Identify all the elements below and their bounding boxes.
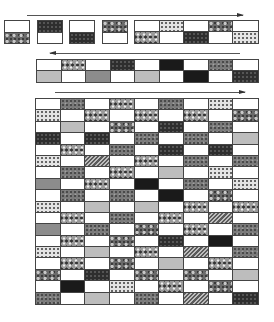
quilt-patch xyxy=(159,236,184,247)
quilt-patch xyxy=(85,167,110,178)
two-patch-unit xyxy=(102,20,128,44)
quilt-patch xyxy=(209,224,234,235)
quilt-patch xyxy=(36,179,61,190)
quilt-patch xyxy=(233,190,258,201)
patch xyxy=(135,71,160,82)
quilt-patch xyxy=(85,258,110,269)
quilt-patch xyxy=(184,99,209,110)
quilt-patch xyxy=(85,145,110,156)
patch xyxy=(233,60,258,71)
quilt-patch xyxy=(159,213,184,224)
quilt-patch xyxy=(36,293,61,304)
patch xyxy=(209,32,234,43)
quilt-patch xyxy=(184,133,209,144)
quilt-patch xyxy=(36,270,61,281)
quilt-patch xyxy=(85,247,110,258)
quilt-patch xyxy=(159,270,184,281)
quilt-patch xyxy=(85,293,110,304)
quilt-patch xyxy=(184,179,209,190)
quilt-patch xyxy=(135,213,160,224)
quilt-patch xyxy=(209,167,234,178)
quilt-patch xyxy=(209,99,234,110)
patch-top xyxy=(103,21,127,32)
quilt-patch xyxy=(61,133,86,144)
patch xyxy=(209,21,234,32)
two-patch-unit xyxy=(37,20,63,44)
quilt-patch xyxy=(184,190,209,201)
quilt-patch xyxy=(85,281,110,292)
quilt-patch xyxy=(184,270,209,281)
quilt-patch xyxy=(36,281,61,292)
quilt-patch xyxy=(61,236,86,247)
quilt-patch xyxy=(36,202,61,213)
quilt-patch xyxy=(85,236,110,247)
sewn-strip-row-2 xyxy=(36,59,259,83)
quilt-patch xyxy=(184,202,209,213)
quilt-patch xyxy=(110,190,135,201)
quilt-patch xyxy=(184,247,209,258)
patch-top xyxy=(38,21,62,32)
quilt-patch xyxy=(184,167,209,178)
quilt-patch xyxy=(233,179,258,190)
quilt-patch xyxy=(233,156,258,167)
quilt-patch xyxy=(110,258,135,269)
quilt-patch xyxy=(36,213,61,224)
quilt-patch xyxy=(159,145,184,156)
patch xyxy=(160,32,185,43)
quilt-patch xyxy=(61,145,86,156)
quilt-patch xyxy=(209,270,234,281)
quilt-patch xyxy=(61,110,86,121)
quilt-patch xyxy=(135,145,160,156)
quilt-patch xyxy=(36,156,61,167)
quilt-patch xyxy=(110,224,135,235)
quilt-patch xyxy=(233,202,258,213)
quilt-patch xyxy=(36,190,61,201)
quilt-patch xyxy=(36,247,61,258)
quilt-patch xyxy=(36,122,61,133)
quilt-patch xyxy=(36,110,61,121)
quilt-patch xyxy=(135,281,160,292)
quilt-patch xyxy=(110,156,135,167)
quilt-patch xyxy=(159,258,184,269)
quilt-patch xyxy=(209,247,234,258)
arrowhead-icon xyxy=(49,51,56,55)
patch xyxy=(62,60,87,71)
quilt-patch xyxy=(110,179,135,190)
quilt-patch xyxy=(159,99,184,110)
quilt-patch xyxy=(184,293,209,304)
patch xyxy=(233,21,258,32)
assembled-direction-arrow-icon xyxy=(55,92,245,93)
quilt-patch xyxy=(61,224,86,235)
quilt-patch xyxy=(110,110,135,121)
quilt-patch xyxy=(36,236,61,247)
quilt-patch xyxy=(135,133,160,144)
quilt-patch xyxy=(209,156,234,167)
quilt-patch xyxy=(85,224,110,235)
quilt-patch xyxy=(61,167,86,178)
quilt-patch xyxy=(85,122,110,133)
quilt-patch xyxy=(85,202,110,213)
quilt-patch xyxy=(135,247,160,258)
quilt-patch xyxy=(85,99,110,110)
quilt-patch xyxy=(85,110,110,121)
quilt-patch xyxy=(233,110,258,121)
quilt-patch xyxy=(209,179,234,190)
quilt-patch xyxy=(61,122,86,133)
quilt-patch xyxy=(159,122,184,133)
quilt-patch xyxy=(159,281,184,292)
quilt-patch xyxy=(61,258,86,269)
quilt-patch xyxy=(233,213,258,224)
quilt-patch xyxy=(135,122,160,133)
patch-bottom xyxy=(38,32,62,44)
patch xyxy=(111,60,136,71)
patch xyxy=(233,71,258,82)
quilt-patch xyxy=(233,281,258,292)
quilt-patch xyxy=(209,122,234,133)
quilt-patch xyxy=(85,270,110,281)
assembled-quilt-grid xyxy=(35,98,259,305)
quilt-patch xyxy=(233,133,258,144)
quilt-patch xyxy=(135,224,160,235)
quilt-patch xyxy=(135,236,160,247)
quilt-patch xyxy=(184,110,209,121)
patch xyxy=(184,60,209,71)
